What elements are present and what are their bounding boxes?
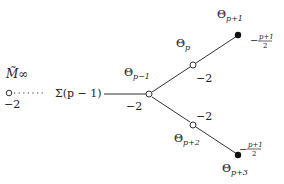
upper-label: Θp bbox=[176, 37, 190, 52]
upper-end-weight-sign: − bbox=[250, 35, 258, 46]
lower-end-label: Θp+3 bbox=[222, 162, 248, 177]
upper-weight: −2 bbox=[196, 72, 212, 85]
upper-open-node bbox=[190, 62, 196, 68]
branch-label: Θp−1 bbox=[124, 66, 150, 81]
upper-filled-node bbox=[235, 32, 241, 38]
upper-end-label: Θp+1 bbox=[217, 8, 243, 23]
m-infinity-label: M̃∞ bbox=[5, 66, 28, 81]
branch-open-node bbox=[146, 91, 152, 97]
branch-weight: −2 bbox=[126, 100, 142, 113]
chain-label: Σ(p − 1) bbox=[55, 87, 102, 100]
upper-end-weight-num: p+1 bbox=[259, 33, 274, 41]
edge-lower-end bbox=[196, 127, 237, 154]
left-weight: −2 bbox=[4, 98, 20, 111]
lower-end-weight-den: 2 bbox=[252, 150, 256, 158]
upper-end-weight-den: 2 bbox=[263, 42, 267, 50]
lower-end-weight-num: p+1 bbox=[248, 141, 263, 149]
edge-branch-lower bbox=[152, 97, 190, 122]
edge-upper-end bbox=[196, 36, 237, 63]
plumbing-diagram: M̃∞ −2 Σ(p − 1) Θp−1 −2 Θp −2 Θp+1 − p+1… bbox=[0, 0, 284, 184]
lower-weight: −2 bbox=[196, 110, 212, 123]
left-open-node bbox=[6, 90, 12, 96]
lower-label: Θp+2 bbox=[174, 132, 200, 147]
lower-end-weight-sign: − bbox=[239, 144, 247, 155]
edge-branch-upper bbox=[152, 67, 190, 92]
